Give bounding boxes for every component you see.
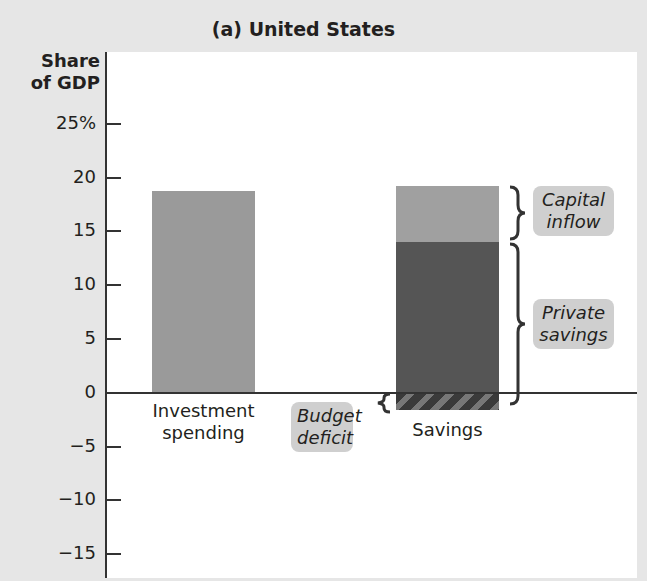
- brace-annotations: [0, 0, 647, 581]
- annotation-capital-inflow: Capital inflow: [533, 186, 614, 236]
- annotation-budget-deficit: Budget deficit: [291, 402, 353, 452]
- category-label-investment: Investment spending: [135, 400, 272, 444]
- annotation-private-savings: Private savings: [533, 299, 614, 349]
- category-label-savings: Savings: [396, 419, 499, 441]
